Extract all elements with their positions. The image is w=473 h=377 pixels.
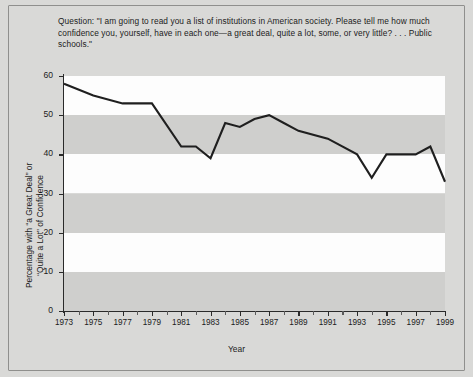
y-tick-10 xyxy=(59,272,64,273)
y-tick-30 xyxy=(59,194,64,195)
x-tick-1978 xyxy=(137,311,138,315)
y-tick-50 xyxy=(59,115,64,116)
series-polyline xyxy=(64,84,445,182)
x-tick-1992 xyxy=(342,311,343,315)
y-tick-40 xyxy=(59,154,64,155)
x-tick-1983 xyxy=(211,311,212,316)
x-tick-1986 xyxy=(255,311,256,315)
chart-figure: Question: "I am going to read you a list… xyxy=(0,0,473,377)
x-tick-1984 xyxy=(225,311,226,315)
x-tick-1981 xyxy=(181,311,182,316)
x-tick-1976 xyxy=(108,311,109,315)
question-text: Question: "I am going to read you a list… xyxy=(58,16,453,51)
x-tick-1982 xyxy=(196,311,197,315)
y-tick-label-0: 0 xyxy=(23,305,53,315)
y-tick-60 xyxy=(59,76,64,77)
x-tick-1995 xyxy=(386,311,387,316)
x-tick-1987 xyxy=(269,311,270,316)
y-tick-label-50: 50 xyxy=(23,109,53,119)
y-axis-label-line1: Percentage with “a Great Deal” or xyxy=(24,163,35,288)
x-tick-1990 xyxy=(313,311,314,315)
x-tick-1977 xyxy=(123,311,124,316)
y-axis-label-line2: “Quite a Lot” of Confidence xyxy=(35,163,46,288)
x-tick-label-1999: 1999 xyxy=(428,318,462,327)
x-tick-1991 xyxy=(328,311,329,316)
x-tick-1996 xyxy=(401,311,402,315)
x-tick-1989 xyxy=(298,311,299,316)
x-tick-1980 xyxy=(167,311,168,315)
y-axis-label: Percentage with “a Great Deal” or “Quite… xyxy=(24,163,45,288)
x-axis-label: Year xyxy=(0,344,473,354)
plot-area xyxy=(64,76,445,311)
x-tick-1988 xyxy=(284,311,285,315)
x-tick-1979 xyxy=(152,311,153,316)
x-tick-1974 xyxy=(79,311,80,315)
x-tick-1993 xyxy=(357,311,358,316)
data-line xyxy=(64,76,445,311)
x-tick-1999 xyxy=(445,311,446,316)
x-tick-1985 xyxy=(240,311,241,316)
x-tick-1975 xyxy=(93,311,94,316)
y-tick-label-60: 60 xyxy=(23,70,53,80)
y-tick-20 xyxy=(59,233,64,234)
x-tick-1994 xyxy=(372,311,373,315)
x-tick-1998 xyxy=(430,311,431,315)
x-tick-1973 xyxy=(64,311,65,316)
x-tick-1997 xyxy=(416,311,417,316)
y-tick-label-40: 40 xyxy=(23,148,53,158)
